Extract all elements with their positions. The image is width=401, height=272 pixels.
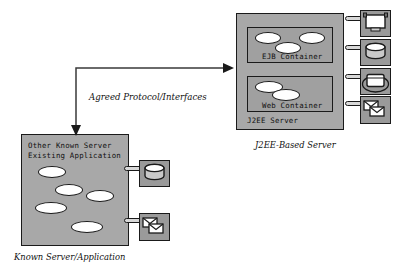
connector-label: Agreed Protocol/Interfaces bbox=[89, 92, 207, 102]
database-icon-box[interactable] bbox=[139, 160, 170, 187]
j2ee-server-label: J2EE Server bbox=[247, 116, 298, 126]
known-server-component bbox=[38, 166, 66, 178]
ejb-component bbox=[255, 32, 281, 44]
diagram-canvas: EJB Container Web Container J2EE Server … bbox=[0, 0, 401, 272]
known-server-component bbox=[71, 221, 103, 233]
ejb-container-label: EJB Container bbox=[262, 52, 322, 62]
web-component bbox=[272, 89, 300, 101]
known-server-label-line1: Other Known Server bbox=[28, 141, 112, 151]
known-server-component bbox=[55, 184, 83, 196]
web-container-label: Web Container bbox=[262, 101, 322, 111]
arrow-head-right bbox=[223, 63, 234, 73]
monitor-icon-box[interactable] bbox=[360, 10, 391, 37]
known-server-caption: Known Server/Application bbox=[14, 252, 125, 262]
known-server-component bbox=[35, 202, 67, 214]
network-device-icon-box[interactable] bbox=[360, 68, 391, 95]
known-server-label-line2: Existing Application bbox=[28, 151, 121, 161]
ejb-component bbox=[299, 32, 325, 44]
mail-icon-box[interactable] bbox=[139, 213, 170, 241]
j2ee-server-caption: J2EE-Based Server bbox=[255, 140, 336, 150]
known-server-component bbox=[86, 190, 114, 202]
mail-icon-box[interactable] bbox=[360, 96, 391, 124]
database-icon-box[interactable] bbox=[360, 39, 391, 66]
